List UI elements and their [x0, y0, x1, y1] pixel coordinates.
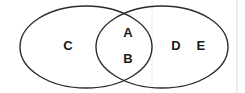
region-label-b: B — [123, 51, 133, 66]
region-label-a: A — [123, 25, 133, 40]
venn-diagram-canvas: C A B D E — [0, 0, 245, 93]
region-label-e: E — [197, 38, 206, 53]
region-label-d: D — [171, 38, 181, 53]
region-label-c: C — [63, 38, 73, 53]
venn-diagram-figure: C A B D E — [0, 0, 245, 93]
